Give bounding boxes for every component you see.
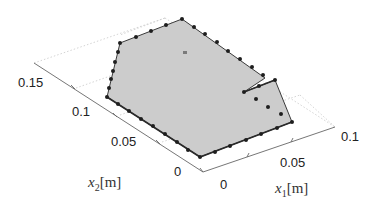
x1-tick-label: 0.1 bbox=[341, 129, 359, 144]
chart-3d-plot bbox=[0, 0, 370, 211]
x1-tick-label: 0 bbox=[220, 177, 227, 192]
x1-tick-label: 0.05 bbox=[280, 155, 305, 170]
x1-axis-label: x1[m] bbox=[275, 180, 308, 199]
center-marker bbox=[183, 51, 187, 54]
x2-axis-label: x2[m] bbox=[88, 174, 121, 193]
x2-tick-label: 0.1 bbox=[72, 104, 90, 119]
x2-tick-label: 0 bbox=[174, 164, 181, 179]
x2-tick-label: 0.15 bbox=[18, 75, 43, 90]
x2-tick-label: 0.05 bbox=[111, 134, 136, 149]
